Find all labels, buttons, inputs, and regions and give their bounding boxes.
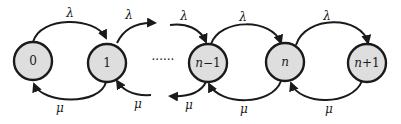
mu-label-n-plus-1-n: μ <box>325 102 333 116</box>
state-n-plus-1-label: n+1 <box>354 56 379 70</box>
lambda-label-1-ellipsis: λ <box>124 8 133 22</box>
state-n-minus-1: n−1 <box>189 44 227 82</box>
state-1-label: 1 <box>103 56 111 70</box>
edge-1-to-ellipsis <box>117 23 155 43</box>
state-n-label: n <box>281 55 289 69</box>
lambda-label-ellipsis-n-minus-1: λ <box>179 9 188 23</box>
edge-1-to-0 <box>34 82 106 100</box>
mu-label-n-n-minus-1: μ <box>240 102 248 116</box>
mu-label-1-0: μ <box>56 101 64 115</box>
lambda-label-0-1: λ <box>65 6 74 20</box>
state-0-label: 0 <box>29 54 37 68</box>
state-1: 1 <box>88 44 126 82</box>
edge-n-minus-1-to-ellipsis <box>170 82 206 96</box>
state-n: n <box>266 43 304 81</box>
edge-n-to-n-minus-1 <box>209 81 281 100</box>
edge-ellipsis-to-n-minus-1 <box>170 25 206 42</box>
edge-n-minus-1-to-n <box>211 24 281 44</box>
lambda-label-n-n-plus-1: λ <box>322 9 331 23</box>
edge-0-to-1 <box>33 22 106 42</box>
state-n-minus-1-label: n−1 <box>195 56 220 70</box>
edge-n-to-n-plus-1 <box>296 22 368 45</box>
mu-label-ellipsis-1: μ <box>134 97 142 111</box>
edge-ellipsis-to-1 <box>117 81 151 95</box>
mu-label-n-minus-1-ellipsis: μ <box>185 98 193 112</box>
markov-chain-diagram: 0 1 n−1 n n+1 ······ λ λ λ λ λ μ μ μ μ μ <box>0 0 401 124</box>
state-0: 0 <box>14 42 52 80</box>
edge-n-plus-1-to-n <box>291 81 362 100</box>
state-n-plus-1: n+1 <box>348 44 386 82</box>
ellipsis: ······ <box>152 53 175 67</box>
lambda-label-n-minus-1-n: λ <box>238 10 247 24</box>
